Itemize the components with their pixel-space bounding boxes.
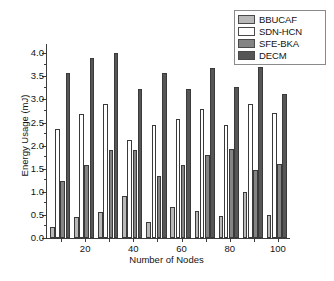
bar-group-70 (193, 44, 217, 238)
y-tick-label: 4.0 (31, 47, 44, 58)
bar-decm-100 (282, 94, 287, 238)
x-tick-mark (85, 238, 86, 242)
x-tick-label: 40 (128, 243, 139, 254)
y-tick-label: 3.5 (31, 70, 44, 81)
bar-bbucaf-70 (195, 211, 200, 238)
bar-sdn-hcn-20 (79, 114, 84, 238)
bar-sfe-bka-40 (133, 150, 138, 238)
x-tick-label: 80 (224, 243, 235, 254)
bar-decm-90 (258, 67, 263, 238)
bar-group-30 (96, 44, 120, 238)
bar-group-20 (72, 44, 96, 238)
x-tick-mark (206, 238, 207, 242)
bar-bbucaf-80 (219, 216, 224, 238)
bar-decm-80 (234, 87, 239, 238)
x-tick-mark (254, 238, 255, 242)
bar-bbucaf-40 (122, 196, 127, 238)
bar-bbucaf-100 (267, 215, 272, 238)
legend-label-sdn-hcn: SDN-HCN (259, 26, 302, 37)
y-tick-label: 3.0 (31, 93, 44, 104)
bar-sfe-bka-80 (229, 149, 234, 238)
bar-sdn-hcn-90 (248, 104, 253, 238)
bar-sfe-bka-70 (205, 155, 210, 238)
bar-bbucaf-60 (170, 207, 175, 238)
bar-sfe-bka-50 (157, 176, 162, 238)
x-tick-mark (61, 238, 62, 242)
legend-swatch-bbucaf (238, 15, 255, 24)
x-tick-label: 60 (176, 243, 187, 254)
bar-sdn-hcn-70 (200, 109, 205, 238)
bar-sdn-hcn-60 (176, 119, 181, 238)
legend-label-bbucaf: BBUCAF (259, 14, 297, 25)
y-tick-label: 0.5 (31, 209, 44, 220)
bar-sfe-bka-10 (60, 181, 65, 238)
bar-groups (47, 44, 290, 238)
x-axis-label: Number of Nodes (44, 254, 289, 265)
bar-bbucaf-30 (98, 212, 103, 238)
y-tick-label: 2.0 (31, 140, 44, 151)
x-tick-mark (133, 238, 134, 242)
y-tick-label: 1.5 (31, 163, 44, 174)
x-tick-mark (109, 238, 110, 242)
bar-sfe-bka-30 (109, 150, 114, 238)
bar-decm-20 (90, 58, 95, 238)
bar-decm-30 (114, 53, 119, 238)
bar-group-10 (48, 44, 72, 238)
bar-decm-50 (162, 73, 167, 238)
bar-sdn-hcn-10 (55, 129, 60, 238)
bar-decm-10 (66, 73, 71, 238)
bar-group-90 (241, 44, 265, 238)
bar-sfe-bka-90 (253, 170, 258, 238)
legend-swatch-sdn-hcn (238, 27, 255, 36)
plot-area: 0.00.51.01.52.02.53.03.54.0 20406080100 (46, 44, 290, 239)
bar-sdn-hcn-100 (272, 113, 277, 238)
bar-sfe-bka-60 (181, 165, 186, 238)
x-tick-mark (157, 238, 158, 242)
bar-group-50 (144, 44, 168, 238)
y-tick-label: 1.0 (31, 186, 44, 197)
bar-bbucaf-20 (74, 217, 79, 238)
bar-group-40 (120, 44, 144, 238)
bar-bbucaf-50 (146, 222, 151, 238)
bar-sdn-hcn-40 (127, 140, 132, 238)
bar-sdn-hcn-30 (103, 104, 108, 238)
y-axis-label: Energy Usage (mJ) (19, 61, 30, 211)
bar-group-80 (217, 44, 241, 238)
bar-decm-70 (210, 68, 215, 238)
bar-sfe-bka-20 (84, 165, 89, 238)
x-tick-mark (230, 238, 231, 242)
bar-sdn-hcn-50 (152, 125, 157, 238)
bar-bbucaf-90 (243, 192, 248, 238)
legend-item-bbucaf: BBUCAF (238, 13, 322, 25)
bar-sfe-bka-100 (277, 164, 282, 238)
x-tick-mark (182, 238, 183, 242)
bar-decm-60 (186, 89, 191, 238)
bar-group-100 (265, 44, 289, 238)
x-tick-label: 20 (80, 243, 91, 254)
x-tick-label: 100 (270, 243, 286, 254)
bar-group-60 (168, 44, 192, 238)
bar-bbucaf-10 (50, 227, 55, 238)
y-tick-label: 2.5 (31, 117, 44, 128)
bar-sdn-hcn-80 (224, 125, 229, 238)
energy-usage-bar-chart: BBUCAF SDN-HCN SFE-BKA DECM Energy Usage… (0, 0, 334, 281)
bar-decm-40 (138, 89, 143, 238)
x-tick-mark (278, 238, 279, 242)
legend-item-sdn-hcn: SDN-HCN (238, 25, 322, 37)
y-tick-label: 0.0 (31, 232, 44, 243)
